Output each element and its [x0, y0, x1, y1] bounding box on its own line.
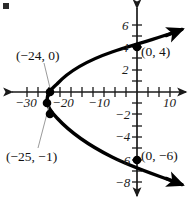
point-marker-minus24-minus2[interactable]	[46, 110, 55, 119]
y-tick-label-neg2: −2	[115, 107, 131, 122]
graph-figure: −30 −20 −10 10 6 4 2 −2 −4 −6 −8 (−24, 0…	[0, 0, 195, 202]
x-tick-label-neg10: −10	[88, 95, 110, 110]
point-marker-minus25-minus1[interactable]	[43, 99, 52, 108]
point-label-0-minus6: (0, −6)	[141, 148, 178, 163]
coordinate-plane-svg: −30 −20 −10 10 6 4 2 −2 −4 −6 −8 (−24, 0…	[0, 0, 195, 202]
corner-artifact-mark	[3, 3, 9, 9]
y-tick-label-neg8: −8	[115, 175, 131, 190]
y-tick-label-neg4: −4	[115, 129, 131, 144]
x-tick-label-pos10: 10	[163, 95, 177, 110]
y-tick-label-6: 6	[122, 18, 129, 33]
point-label-minus24-0: (−24, 0)	[16, 48, 60, 63]
leader-line-p1	[44, 63, 50, 88]
x-tick-label-neg30: −30	[15, 95, 37, 110]
point-label-minus25-minus1: (−25, −1)	[6, 149, 57, 164]
point-marker-0-minus6[interactable]	[133, 156, 142, 165]
point-label-0-4: (0, 4)	[141, 44, 170, 59]
y-tick-label-4: 4	[122, 40, 129, 55]
y-tick-label-neg6: −6	[115, 153, 131, 168]
parabola-arrow-lower	[166, 178, 182, 184]
point-marker-0-4[interactable]	[133, 43, 142, 52]
x-tick-label-neg20: −20	[52, 95, 74, 110]
y-tick-label-2: 2	[122, 62, 129, 77]
